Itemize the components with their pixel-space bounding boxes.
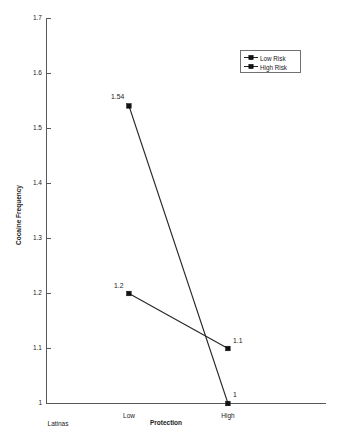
y-tick-label-5: 1.3 xyxy=(20,235,42,242)
point-label-low-risk-high: 1.1 xyxy=(233,338,242,345)
x-tick-label-high: High xyxy=(206,413,250,420)
legend-label-high-risk: High Risk xyxy=(260,64,287,71)
data-point-low-risk-high xyxy=(226,346,231,351)
y-tick-label-3: 1.5 xyxy=(20,125,42,132)
x-axis-title: Protection xyxy=(131,420,201,427)
point-label-high-risk-low: 1.54 xyxy=(111,94,124,101)
legend-label-low-risk: Low Risk xyxy=(260,55,286,62)
y-tick-label-8: 1 xyxy=(20,400,42,407)
x-tick-label-low: Low xyxy=(107,413,151,420)
data-point-high-risk-high xyxy=(226,401,231,406)
data-point-low-risk-low xyxy=(127,291,132,296)
series-line-high-risk xyxy=(129,106,228,404)
y-tick-label-1: 1.7 xyxy=(20,15,42,22)
data-point-high-risk-low xyxy=(127,104,132,109)
legend-marker-high-risk xyxy=(249,64,253,68)
group-label-latinas: Latinas xyxy=(33,421,83,428)
legend-marker-low-risk xyxy=(249,55,253,59)
series-line-low-risk xyxy=(129,294,228,349)
chart-canvas xyxy=(0,0,343,438)
y-tick-label-6: 1.2 xyxy=(20,290,42,297)
point-label-low-risk-low: 1.2 xyxy=(114,283,123,290)
point-label-high-risk-high: 1 xyxy=(233,392,237,399)
chart-figure: Cocaine Frequency 1.7 1.6 1.5 1.4 1.3 1.… xyxy=(0,0,343,438)
y-tick-label-2: 1.6 xyxy=(20,70,42,77)
y-tick-label-4: 1.4 xyxy=(20,180,42,187)
y-tick-label-7: 1.1 xyxy=(20,345,42,352)
